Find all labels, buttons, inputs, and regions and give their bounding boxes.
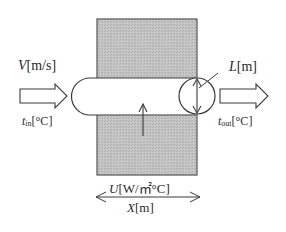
pipe — [72, 78, 197, 115]
outlet-temp-label: tout[°C] — [218, 114, 252, 128]
velocity-label: V[m/s] — [18, 58, 56, 73]
heat-transfer-coeff-label: U[W/㎡°C] — [109, 181, 170, 196]
inlet-flow-arrow-icon — [20, 84, 67, 108]
diameter-label: L[m] — [228, 59, 257, 74]
heat-exchanger-diagram: V[m/s] tin[°C] L[m] tout[°C] U[W/㎡°C] X[… — [0, 0, 286, 232]
inlet-temp-label: tin[°C] — [22, 114, 52, 128]
length-label: X[m] — [126, 200, 154, 215]
outlet-flow-arrow-icon — [220, 84, 268, 108]
